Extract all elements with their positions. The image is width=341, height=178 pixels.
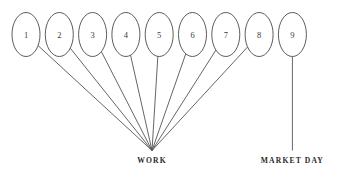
edge-node-8-to-work	[152, 47, 248, 151]
node-label-1: 1	[24, 30, 28, 40]
node-label-4: 4	[124, 30, 129, 40]
edge-node-2-to-work	[70, 48, 152, 150]
edge-node-1-to-work	[38, 46, 152, 151]
diagram-canvas: 123456789 WORKMARKET DAY	[0, 0, 341, 178]
edge-node-7-to-work	[152, 50, 216, 150]
node-2[interactable]: 2	[45, 13, 73, 57]
node-label-5: 5	[157, 30, 161, 40]
node-9[interactable]: 9	[278, 13, 306, 57]
node-8[interactable]: 8	[245, 13, 273, 57]
convergence-diagram: 123456789 WORKMARKET DAY	[0, 0, 341, 178]
group-labels-layer: WORKMARKET DAY	[137, 156, 324, 165]
node-label-7: 7	[224, 30, 228, 40]
node-7[interactable]: 7	[212, 13, 240, 57]
node-1[interactable]: 1	[12, 13, 40, 57]
node-label-2: 2	[57, 30, 61, 40]
edge-node-4-to-work	[131, 55, 152, 150]
node-4[interactable]: 4	[112, 13, 140, 57]
node-label-9: 9	[290, 30, 294, 40]
node-label-6: 6	[190, 30, 194, 40]
node-6[interactable]: 6	[179, 13, 207, 57]
nodes-layer: 123456789	[12, 13, 306, 57]
node-label-3: 3	[90, 30, 94, 40]
node-3[interactable]: 3	[79, 13, 107, 57]
edge-node-3-to-work	[101, 52, 152, 151]
node-label-8: 8	[257, 30, 261, 40]
edges-layer	[38, 46, 292, 151]
node-5[interactable]: 5	[145, 13, 173, 57]
group-label-work: WORK	[137, 156, 167, 165]
group-label-market-day: MARKET DAY	[261, 156, 324, 165]
